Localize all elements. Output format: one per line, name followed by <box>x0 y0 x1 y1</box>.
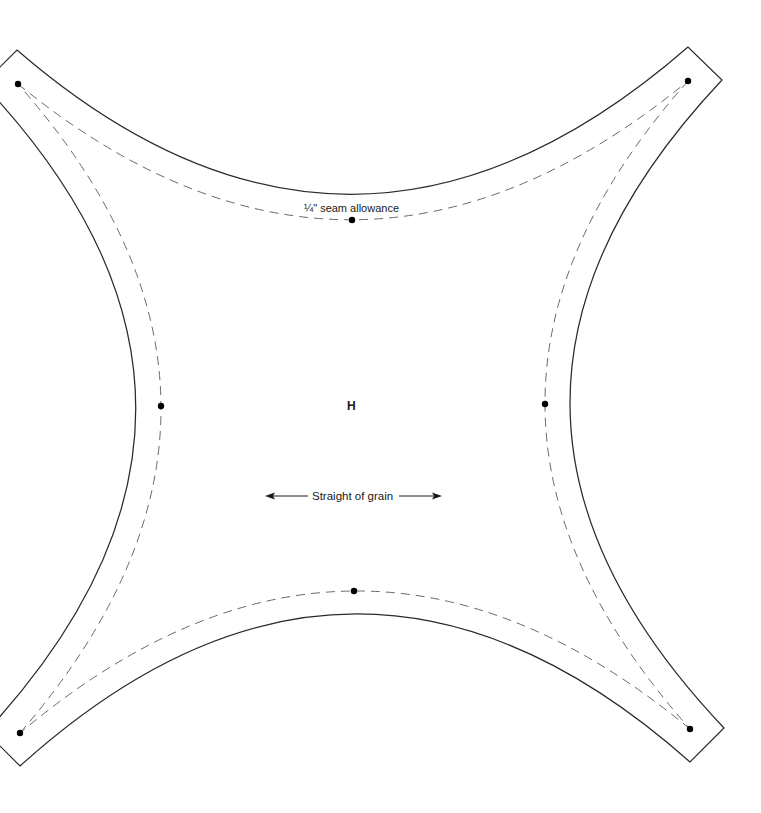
grain-arrow: Straight of grain <box>265 490 442 502</box>
marker-dot-mid-bottom <box>351 588 357 594</box>
piece-letter: H <box>347 399 356 413</box>
marker-dot-mid-left <box>158 403 164 409</box>
marker-dot-top-right <box>685 78 691 84</box>
marker-dot-bottom-right <box>687 726 693 732</box>
grain-label: Straight of grain <box>312 490 393 502</box>
marker-dot-bottom-left <box>17 730 23 736</box>
seam-line-left <box>18 84 161 733</box>
cutting-outline <box>0 47 724 766</box>
seam-line-top <box>18 81 688 220</box>
marker-dot-top-left <box>15 81 21 87</box>
marker-dot-mid-top <box>349 217 355 223</box>
seam-line-right <box>545 81 690 729</box>
seam-allowance-label: ¼" seam allowance <box>304 202 399 214</box>
marker-dot-mid-right <box>542 401 548 407</box>
seam-line-bottom <box>20 591 690 733</box>
quilt-template-h: ¼" seam allowance H Straight of grain <box>0 0 761 813</box>
